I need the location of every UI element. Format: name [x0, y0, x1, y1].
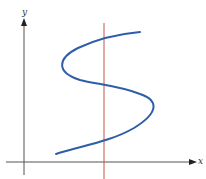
vertical-line-test-diagram: y x	[0, 0, 206, 179]
s-curve	[56, 32, 154, 154]
x-axis-label: x	[198, 157, 203, 166]
y-axis-label: y	[22, 8, 27, 17]
y-axis-arrow-icon	[21, 18, 27, 26]
diagram-svg	[0, 0, 206, 179]
x-axis-arrow-icon	[189, 159, 197, 165]
